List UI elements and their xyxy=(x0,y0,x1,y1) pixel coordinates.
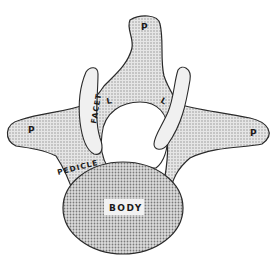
label-process-left: P xyxy=(28,125,35,135)
label-process-right: P xyxy=(250,128,257,138)
vertebra-diagram: P P P FACET L L PEDICLE BODY xyxy=(0,0,276,260)
label-body: BODY xyxy=(109,203,143,213)
label-process-top: P xyxy=(141,22,148,32)
